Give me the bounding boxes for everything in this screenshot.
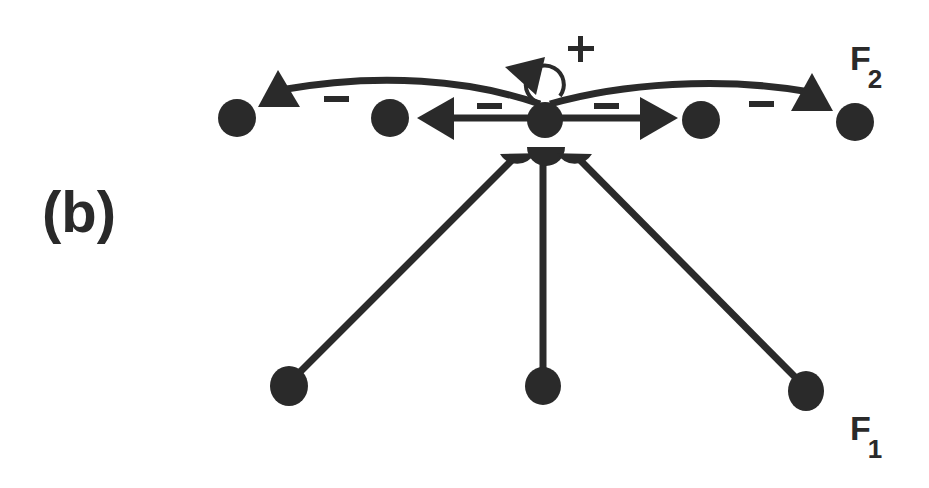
- pathway-left: [296, 160, 512, 376]
- minus-sign-far-right: [749, 101, 774, 107]
- f2-node-2: [371, 99, 409, 137]
- pathway-right: [580, 160, 798, 380]
- triangle-arrowhead-near-right: [640, 97, 678, 140]
- minus-sign-far-left: [324, 96, 349, 102]
- f2-node-center: [527, 102, 563, 138]
- f2-label: F2: [850, 39, 882, 94]
- synapse-knob-center: [527, 147, 565, 166]
- f2-node-5: [836, 103, 874, 141]
- f1-node-3: [788, 371, 824, 411]
- plus-sign-vertical: [578, 36, 583, 62]
- f1-node-1: [270, 366, 308, 406]
- f2-node-1: [218, 99, 256, 137]
- inhibitory-edge-far-right: [550, 83, 810, 104]
- triangle-arrowhead-near-left: [417, 97, 454, 140]
- f1-label: F1: [850, 409, 882, 464]
- network-diagram: (b) F2 F1: [0, 0, 929, 488]
- minus-sign-near-right: [594, 103, 619, 109]
- f1-node-2: [525, 367, 561, 405]
- minus-sign-near-left: [477, 103, 502, 109]
- f2-node-4: [682, 101, 720, 139]
- inhibitory-edge-far-left: [280, 80, 540, 104]
- panel-label: (b): [42, 179, 116, 244]
